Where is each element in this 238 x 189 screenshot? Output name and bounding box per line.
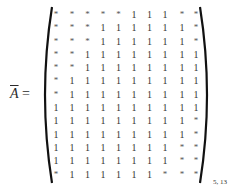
matrix-entry: 1 bbox=[66, 141, 78, 154]
matrix-entry: 1 bbox=[66, 154, 78, 167]
matrix-entry: 1 bbox=[113, 114, 125, 127]
matrix-entry: 1 bbox=[159, 35, 171, 48]
matrix-row: *111111111 bbox=[50, 88, 202, 101]
matrix-entry: 1 bbox=[82, 114, 94, 127]
matrix-entry: * bbox=[50, 21, 62, 34]
matrix-entry: 1 bbox=[66, 74, 78, 87]
matrix-entry: 1 bbox=[144, 74, 156, 87]
matrix-row: 1111111111 bbox=[50, 101, 202, 114]
matrix-entry: 1 bbox=[159, 114, 171, 127]
matrix-row: **11111111 bbox=[50, 48, 202, 61]
matrix-entry: 1 bbox=[176, 35, 188, 48]
matrix-entry: * bbox=[82, 21, 94, 34]
matrix-row: ***111111* bbox=[50, 21, 202, 34]
matrix-row: **11111111 bbox=[50, 61, 202, 74]
matrix-entry: 1 bbox=[113, 101, 125, 114]
matrix-entry: 1 bbox=[159, 88, 171, 101]
matrix-row: *111111*** bbox=[50, 168, 202, 181]
matrix-entry: * bbox=[159, 168, 171, 181]
matrix-entry: * bbox=[50, 61, 62, 74]
matrix-entry: 1 bbox=[144, 101, 156, 114]
matrix-row: 111111111* bbox=[50, 114, 202, 127]
matrix-entry: 1 bbox=[50, 128, 62, 141]
matrix-entry: 1 bbox=[176, 48, 188, 61]
matrix-entry: * bbox=[50, 48, 62, 61]
matrix-entry: 1 bbox=[113, 154, 125, 167]
matrix-entry: * bbox=[66, 61, 78, 74]
matrix-entry: * bbox=[66, 35, 78, 48]
matrix-entry: * bbox=[50, 74, 62, 87]
matrix-entry: 1 bbox=[97, 168, 109, 181]
right-parenthesis bbox=[198, 6, 212, 184]
matrix-entry: 1 bbox=[97, 101, 109, 114]
matrix-entry: 1 bbox=[176, 61, 188, 74]
matrix-entry: 1 bbox=[128, 154, 140, 167]
matrix-row: 11111111** bbox=[50, 141, 202, 154]
matrix-entry: 1 bbox=[113, 35, 125, 48]
matrix-entry: 1 bbox=[97, 35, 109, 48]
matrix-entry: 1 bbox=[176, 128, 188, 141]
matrix-entry: 1 bbox=[144, 48, 156, 61]
matrix-entry: 1 bbox=[144, 61, 156, 74]
matrix-entry: 1 bbox=[97, 61, 109, 74]
matrix-row: *111111111 bbox=[50, 74, 202, 87]
matrix-entry: 1 bbox=[128, 21, 140, 34]
matrix-entry: 1 bbox=[128, 101, 140, 114]
matrix-entry: * bbox=[176, 8, 188, 21]
matrix-entry: 1 bbox=[66, 88, 78, 101]
matrix-entry: 1 bbox=[159, 154, 171, 167]
matrix-row: 111111111* bbox=[50, 128, 202, 141]
matrix-entry: 1 bbox=[50, 114, 62, 127]
matrix-entry: * bbox=[50, 88, 62, 101]
matrix-entry: 1 bbox=[144, 141, 156, 154]
matrix-entry: 1 bbox=[128, 128, 140, 141]
matrix-entry: 1 bbox=[159, 128, 171, 141]
matrix-entry: 1 bbox=[50, 101, 62, 114]
matrix-symbol: A bbox=[10, 86, 19, 101]
matrix-entry: 1 bbox=[159, 141, 171, 154]
matrix-entry: 1 bbox=[128, 114, 140, 127]
matrix-entry: 1 bbox=[144, 168, 156, 181]
matrix-entry: 1 bbox=[66, 128, 78, 141]
matrix-entry: 1 bbox=[66, 168, 78, 181]
matrix-entry: 1 bbox=[128, 74, 140, 87]
matrix-dimension-subscript: 5, 13 bbox=[213, 178, 227, 186]
matrix-entry: 1 bbox=[144, 128, 156, 141]
matrix-entry: * bbox=[176, 168, 188, 181]
matrix-entry: 1 bbox=[50, 141, 62, 154]
matrix-row: 11111111** bbox=[50, 154, 202, 167]
matrix-entry: 1 bbox=[144, 21, 156, 34]
matrix-entry: 1 bbox=[97, 21, 109, 34]
matrix-label: A = bbox=[10, 86, 30, 102]
matrix-entry: 1 bbox=[128, 8, 140, 21]
matrix-entry: 1 bbox=[159, 74, 171, 87]
matrix-entry: 1 bbox=[97, 114, 109, 127]
matrix-entry: 1 bbox=[176, 88, 188, 101]
matrix-entry: 1 bbox=[159, 101, 171, 114]
matrix-entry: * bbox=[66, 48, 78, 61]
matrix-entry: 1 bbox=[159, 61, 171, 74]
matrix-entry: 1 bbox=[82, 74, 94, 87]
matrix-row: ***111111* bbox=[50, 35, 202, 48]
matrix-entry: 1 bbox=[66, 114, 78, 127]
matrix-entry: * bbox=[82, 8, 94, 21]
matrix-entry: 1 bbox=[97, 88, 109, 101]
matrix-entry: 1 bbox=[176, 74, 188, 87]
matrix-entry: 1 bbox=[82, 141, 94, 154]
matrix-entry: 1 bbox=[144, 35, 156, 48]
matrix-entry: * bbox=[113, 8, 125, 21]
matrix-entry: 1 bbox=[128, 35, 140, 48]
matrix-entry: 1 bbox=[176, 114, 188, 127]
matrix-entry: * bbox=[66, 21, 78, 34]
matrix-entry: 1 bbox=[97, 141, 109, 154]
matrix-entry: 1 bbox=[128, 61, 140, 74]
matrix-entry: 1 bbox=[82, 101, 94, 114]
matrix-entry: 1 bbox=[66, 101, 78, 114]
matrix-entry: 1 bbox=[97, 154, 109, 167]
matrix-entry: 1 bbox=[159, 8, 171, 21]
matrix-entry: 1 bbox=[176, 21, 188, 34]
matrix-entry: * bbox=[176, 141, 188, 154]
matrix-entry: 1 bbox=[97, 128, 109, 141]
matrix-entry: 1 bbox=[82, 88, 94, 101]
matrix-entry: 1 bbox=[82, 61, 94, 74]
